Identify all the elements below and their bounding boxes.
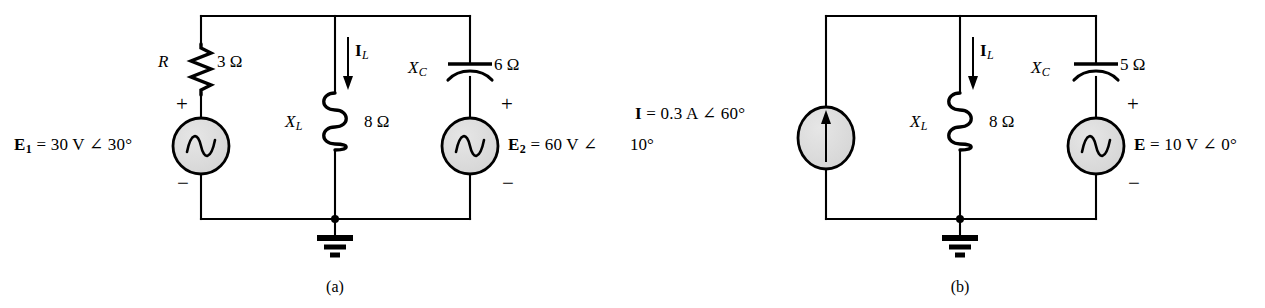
resistor-label-a: R [158,52,168,71]
capacitor-subscript-a: C [418,65,426,79]
source-e2-value-line2: 10° [630,135,654,154]
source-e1-plus: + [176,94,188,115]
capacitor-subscript-b: C [1041,65,1049,79]
ac-source-e2 [442,118,498,174]
caption-b: (b) [925,278,995,296]
circuit-b-group [798,16,1124,255]
inductor-value-b: 8 Ω [989,112,1014,131]
current-arrow-il-b [968,37,978,90]
source-e-plus: + [1127,94,1139,115]
current-il-symbol-b: I [980,41,987,60]
source-e1-minus: − [177,173,189,194]
ac-source-e1 [173,118,229,174]
caption-a: (a) [300,278,370,296]
circuit-figure: E1 = 30 V ∠ 30° + − R 3 Ω XL 8 Ω IL XC 6… [0,0,1265,308]
source-e-label: E = 10 V ∠ 0° [1134,135,1237,154]
source-e1-equals: = [37,135,47,154]
inductor-symbol-b: X [910,112,920,131]
source-i-value: 0.3 A ∠ 60° [661,104,746,123]
ground-symbol-b [942,215,978,255]
source-i-label: I = 0.3 A ∠ 60° [635,104,745,123]
inductor-label-a: XL [285,112,302,134]
inductor-label-b: XL [910,112,927,134]
ground-symbol-a [317,215,353,255]
source-e-value: 10 V ∠ 0° [1164,135,1237,154]
current-il-symbol-a: I [355,41,362,60]
capacitor-label-b: XC [1031,58,1050,80]
resistor-a [191,44,211,95]
capacitor-value-a: 6 Ω [494,55,519,74]
current-il-label-b: IL [980,41,994,63]
capacitor-value-b: 5 Ω [1120,55,1145,74]
inductor-subscript-a: L [295,119,302,133]
ac-source-e [1068,118,1124,174]
resistor-value-a: 3 Ω [217,52,242,71]
inductor-value-a: 8 Ω [364,112,389,131]
source-e-minus: − [1128,173,1140,194]
source-i-symbol: I [635,104,642,123]
current-il-subscript-a: L [362,48,369,62]
source-i-equals: = [646,104,656,123]
capacitor-symbol-b: X [1031,58,1041,77]
source-e2-plus: + [501,94,513,115]
source-e2-minus: − [502,173,514,194]
source-e-symbol: E [1134,135,1146,154]
capacitor-symbol-a: X [408,58,418,77]
current-il-label-a: IL [355,41,369,63]
inductor-subscript-b: L [920,119,927,133]
source-e1-label: E1 = 30 V ∠ 30° [14,135,132,157]
inductor-xl-a [324,93,347,150]
current-arrow-il-a [343,37,353,90]
source-e-equals: = [1150,135,1160,154]
source-e2-value-line1: 60 V ∠ [545,135,598,154]
current-il-subscript-b: L [987,48,994,62]
source-e2-equals: = [531,135,541,154]
source-e1-value: 30 V ∠ 30° [51,135,132,154]
source-e1-symbol: E [14,135,26,154]
source-e2-label: E2 = 60 V ∠ [508,135,597,157]
ac-current-source-i [798,107,854,169]
inductor-symbol-a: X [285,112,295,131]
capacitor-label-a: XC [408,58,427,80]
inductor-xl-b [949,93,972,150]
source-e2-symbol: E [508,135,520,154]
